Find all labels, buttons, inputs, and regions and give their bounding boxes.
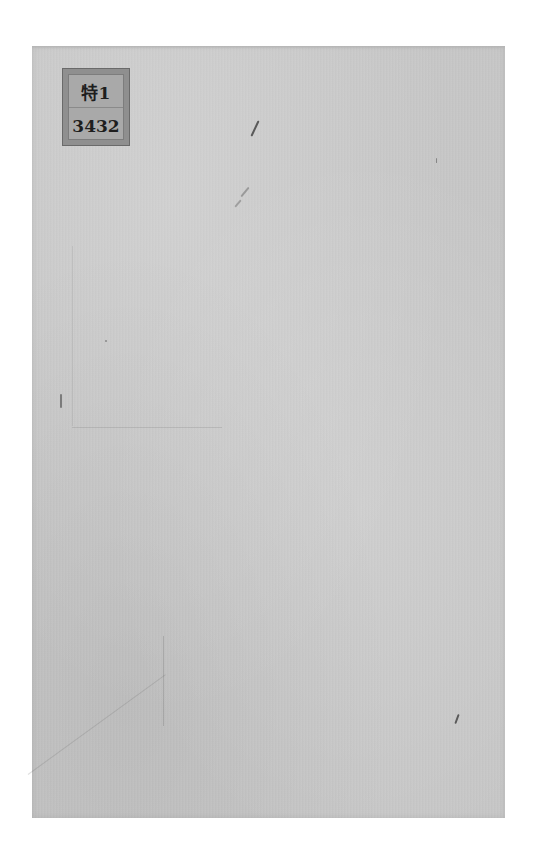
crease-horizontal [72,427,222,428]
ink-dot [105,340,107,342]
ink-smudge-2 [234,199,241,207]
ink-mark-top-right [436,158,437,163]
ink-mark-left [60,394,62,408]
label-inner-frame: 特1 3432 [68,74,124,140]
label-call-number-text: 3432 [69,116,123,136]
library-call-number-label: 特1 3432 [62,68,130,146]
book-cover-page: 特1 3432 [32,46,505,818]
crease-vertical-lower [163,636,164,726]
ink-mark-right [454,714,459,724]
ink-mark-slash [251,120,260,136]
label-classification-text: 特1 [69,79,123,104]
ink-smudge [240,187,249,197]
crease-vertical-left [72,246,73,426]
page-top-edge [32,46,505,49]
label-divider [69,107,123,108]
crease-diagonal [28,674,166,775]
